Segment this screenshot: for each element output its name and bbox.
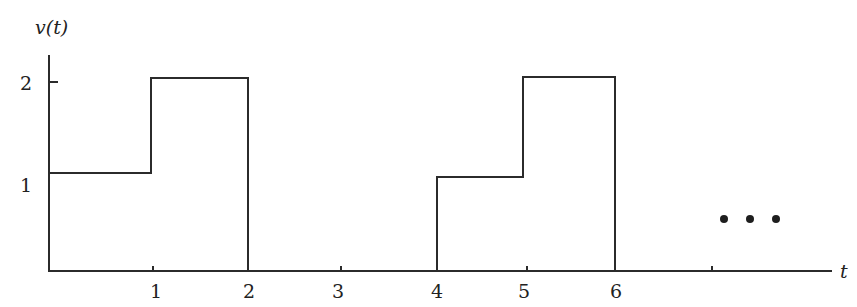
y-axis-label: v(t) [35, 16, 68, 38]
y-tick-label-1: 1 [20, 174, 32, 196]
ellipsis-dot [720, 215, 728, 223]
x-tick-label-2: 2 [243, 280, 255, 302]
x-tick-label-4: 4 [431, 280, 443, 302]
y-ticks [49, 82, 58, 173]
axes [48, 55, 832, 271]
x-tick-label-1: 1 [150, 280, 162, 302]
step-signal-chart: v(t) 2 1 1 2 3 4 5 6 t [0, 0, 857, 307]
y-tick-label-2: 2 [20, 72, 32, 94]
signal-trace [49, 77, 615, 271]
ellipsis-dot [746, 215, 754, 223]
x-axis-label: t [840, 260, 848, 282]
ellipsis-dot [772, 215, 780, 223]
x-tick-label-3: 3 [332, 280, 344, 302]
x-tick-label-5: 5 [518, 280, 530, 302]
x-tick-label-6: 6 [610, 280, 622, 302]
continuation-ellipsis [720, 215, 780, 223]
